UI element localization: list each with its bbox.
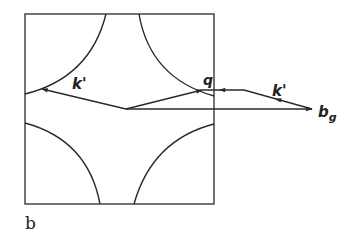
brillouin-zone-diagram: k' q k' bg b	[0, 0, 349, 235]
label-subscript-g: g	[329, 111, 337, 124]
label-k-prime-right: k'	[272, 82, 287, 100]
fermi-arc-bottom-left	[25, 123, 100, 204]
panel-label: b	[25, 213, 36, 233]
fermi-arc-top-left	[25, 14, 106, 94]
fermi-arc-bottom-right	[134, 124, 214, 204]
label-bg: bg	[318, 103, 337, 124]
label-q: q	[203, 72, 213, 88]
label-k-prime-left: k'	[72, 75, 87, 93]
k-vector	[126, 90, 202, 109]
label-b: b	[318, 103, 329, 121]
